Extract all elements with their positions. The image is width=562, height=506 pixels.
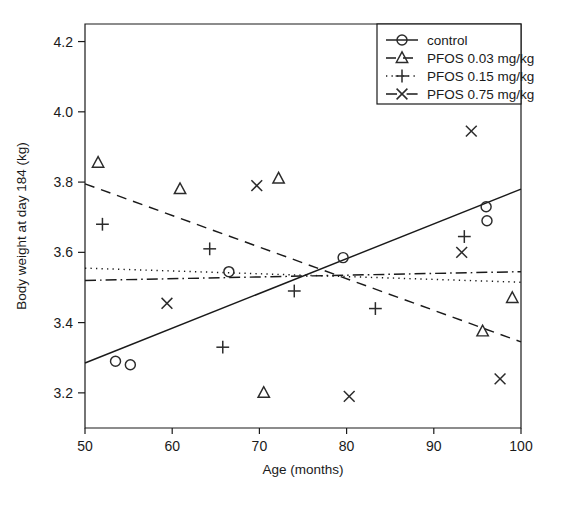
x-tick-label: 100 — [509, 438, 533, 454]
y-tick-label: 4.2 — [54, 34, 74, 50]
y-tick-label: 3.2 — [54, 385, 74, 401]
chart-canvas: 5060708090100 3.23.43.63.84.04.2 Age (mo… — [0, 0, 562, 506]
y-tick-label: 3.4 — [54, 315, 74, 331]
y-tick-label: 3.8 — [54, 174, 74, 190]
legend-label: PFOS 0.03 mg/kg — [427, 51, 534, 66]
x-axis-title: Age (months) — [262, 462, 343, 477]
y-tick-label: 3.6 — [54, 244, 74, 260]
x-tick-label: 80 — [339, 438, 355, 454]
x-tick-label: 90 — [426, 438, 442, 454]
scatter-plot-figure: 5060708090100 3.23.43.63.84.04.2 Age (mo… — [0, 0, 562, 506]
y-axis-title: Body weight at day 184 (kg) — [14, 142, 29, 309]
legend: controlPFOS 0.03 mg/kgPFOS 0.15 mg/kgPFO… — [377, 24, 534, 104]
y-tick-label: 4.0 — [54, 104, 74, 120]
x-tick-label: 70 — [252, 438, 268, 454]
x-tick-label: 60 — [164, 438, 180, 454]
x-tick-label: 50 — [77, 438, 93, 454]
legend-label: PFOS 0.15 mg/kg — [427, 69, 534, 84]
legend-label: control — [427, 33, 468, 48]
legend-label: PFOS 0.75 mg/kg — [427, 87, 534, 102]
